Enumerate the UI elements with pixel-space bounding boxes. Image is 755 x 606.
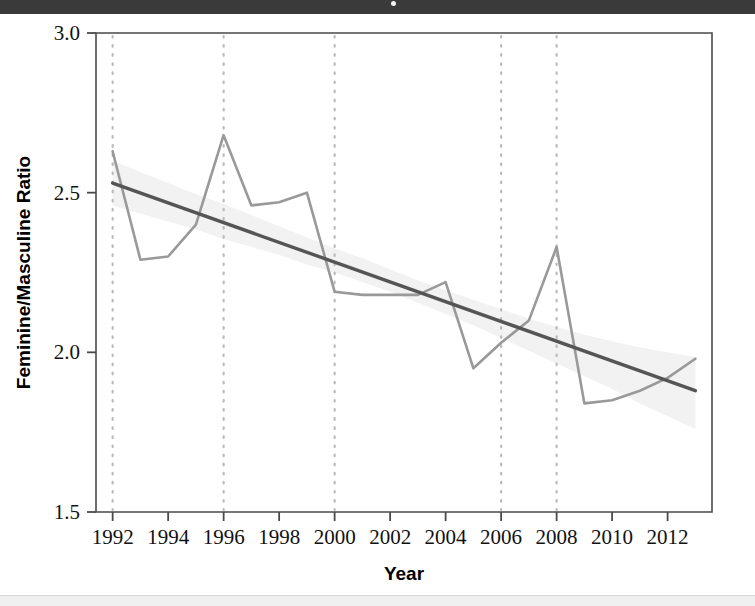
x-tick-label-2004: 2004 xyxy=(425,525,468,549)
x-tick-label-2006: 2006 xyxy=(480,525,522,549)
page-top-edge-band xyxy=(0,0,755,14)
election-year-reference-lines xyxy=(113,36,557,510)
x-tick-label-2008: 2008 xyxy=(536,525,578,549)
line-chart: 1.52.02.53.0 199219941996199820002002200… xyxy=(0,14,755,596)
x-tick-label-2010: 2010 xyxy=(591,525,633,549)
x-tick-label-2012: 2012 xyxy=(647,525,689,549)
x-axis: 1992199419961998200020022004200620082010… xyxy=(92,512,689,549)
x-axis-title: Year xyxy=(384,563,425,584)
scan-artifact-speck xyxy=(391,1,396,6)
y-tick-label-3.0: 3.0 xyxy=(54,21,80,45)
y-tick-label-2.5: 2.5 xyxy=(54,181,80,205)
page-bottom-edge-band xyxy=(0,595,755,606)
y-tick-label-1.5: 1.5 xyxy=(54,500,80,524)
x-tick-label-1992: 1992 xyxy=(92,525,134,549)
trend-line xyxy=(113,183,696,391)
x-tick-label-1994: 1994 xyxy=(147,525,190,549)
y-axis: 1.52.02.53.0 xyxy=(54,21,96,524)
x-tick-label-2000: 2000 xyxy=(314,525,356,549)
y-tick-label-2.0: 2.0 xyxy=(54,340,80,364)
plot-frame xyxy=(96,33,712,512)
x-tick-label-2002: 2002 xyxy=(369,525,411,549)
x-tick-label-1996: 1996 xyxy=(203,525,245,549)
scanned-figure-page: 1.52.02.53.0 199219941996199820002002200… xyxy=(0,0,755,606)
y-axis-title: Feminine/Masculine Ratio xyxy=(13,156,34,389)
x-tick-label-1998: 1998 xyxy=(258,525,300,549)
